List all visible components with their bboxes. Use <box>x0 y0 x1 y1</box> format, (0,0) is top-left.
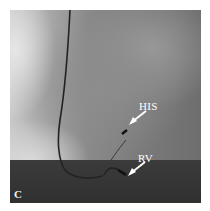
panel-letter: C <box>14 188 22 200</box>
rv-arrow-icon <box>128 162 145 176</box>
his-label: HIS <box>139 100 158 112</box>
catheter-overlay <box>10 10 201 203</box>
his-lead <box>102 140 126 176</box>
his-electrode <box>122 130 127 134</box>
his-arrow-icon <box>129 111 146 125</box>
fluoroscopy-image: C <box>10 10 201 203</box>
rv-label: RV <box>138 152 153 164</box>
